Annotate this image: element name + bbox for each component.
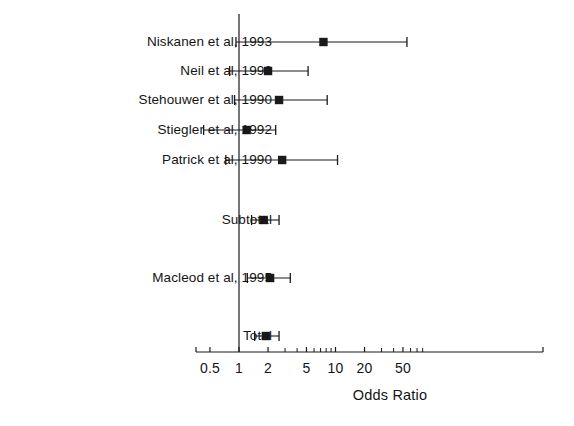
forest-plot-figure: Niskanen et al, 1993Neil et al, 1993Steh… (0, 0, 574, 426)
x-axis-tick-label: 20 (357, 361, 373, 375)
x-axis-tick-label: 0.5 (200, 361, 220, 375)
study-label: Macleod et al, 1995 (152, 271, 272, 285)
axis-title-odds-ratio: Odds Ratio (353, 388, 428, 403)
study-label: Subtotal (222, 213, 272, 227)
study-label: Patrick et al, 1990 (162, 153, 272, 167)
x-axis-tick-label: 1 (235, 361, 243, 375)
x-axis-tick-label: 10 (328, 361, 344, 375)
point-estimate-marker (275, 96, 283, 104)
study-label: Neil et al, 1993 (180, 64, 272, 78)
study-label: Stehouwer et al, 1990 (139, 93, 272, 107)
forest-plot-canvas (0, 0, 574, 426)
x-axis-tick-label: 5 (302, 361, 310, 375)
point-estimate-marker (319, 38, 327, 46)
study-label: Total (243, 329, 272, 343)
study-label: Niskanen et al, 1993 (147, 35, 272, 49)
x-axis-tick-label: 2 (264, 361, 272, 375)
x-axis-tick-label: 50 (395, 361, 411, 375)
study-label: Stiegler et al, 1992 (157, 123, 272, 137)
point-estimate-marker (278, 156, 286, 164)
